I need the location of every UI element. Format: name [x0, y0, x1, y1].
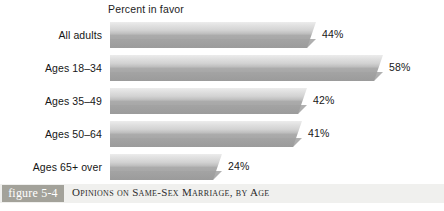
bar-ages-65-over: [110, 154, 222, 180]
bar-row: All adults 44%: [0, 22, 444, 48]
bar-row: Ages 65+ over 24%: [0, 154, 444, 180]
bar-row: Ages 50–64 41%: [0, 121, 444, 147]
category-label: Ages 35–49: [45, 95, 102, 107]
bar-ages-18-34: [110, 55, 383, 81]
bar-ages-50-64: [110, 121, 302, 147]
bar-ages-35-49: [110, 88, 307, 114]
category-label: All adults: [58, 29, 102, 41]
bar-shadow-face: [110, 39, 316, 48]
category-label: Ages 50–64: [45, 128, 102, 140]
bar-value-label: 58%: [389, 61, 410, 73]
chart-title: Percent in favor: [108, 3, 184, 15]
bar-shadow-face: [110, 105, 307, 114]
bar-shadow-face: [110, 138, 302, 147]
bar-row: Ages 18–34 58%: [0, 55, 444, 81]
category-label: Ages 65+ over: [33, 161, 102, 173]
bar-shadow-face: [110, 72, 383, 81]
bar-value-label: 41%: [308, 127, 329, 139]
bar-value-label: 24%: [228, 160, 249, 172]
figure-number-badge: figure 5-4: [2, 185, 64, 202]
bar-shadow-face: [110, 171, 222, 180]
bar-all-adults: [110, 22, 316, 48]
figure-caption-text: Opinions on Same-Sex Marriage, by Age: [72, 186, 269, 198]
bar-value-label: 44%: [322, 28, 343, 40]
bar-value-label: 42%: [313, 94, 334, 106]
category-label: Ages 18–34: [45, 62, 102, 74]
chart-plot-area: All adults 44% Ages 18–34 58% Ages 35–49…: [0, 22, 444, 180]
bar-row: Ages 35–49 42%: [0, 88, 444, 114]
